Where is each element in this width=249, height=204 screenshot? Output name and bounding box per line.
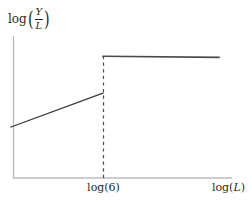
y-axis-label: log ( Y L )	[8, 7, 51, 31]
chart-figure: log ( Y L ) log(6) log(L)	[0, 0, 249, 204]
y-axis-label-fraction: Y L	[35, 7, 44, 31]
y-axis-label-close-paren: )	[44, 9, 50, 29]
series-post-threshold-line	[103, 56, 219, 57]
y-axis-label-function: log	[8, 13, 27, 25]
x-tick-label-value: 6	[109, 181, 116, 194]
x-axis-label-function: log	[212, 181, 229, 194]
x-axis-label-variable: L	[233, 181, 240, 194]
series-pre-threshold-line	[11, 93, 103, 127]
x-tick-label-threshold: log(6)	[79, 182, 128, 193]
x-axis-label: log(L)	[212, 182, 245, 193]
y-axis-label-denominator: L	[35, 21, 44, 32]
x-tick-label-function: log	[87, 181, 104, 194]
x-tick-label-close-paren: )	[116, 181, 120, 194]
y-axis-label-numerator: Y	[35, 7, 44, 18]
y-axis-label-open-paren: (	[28, 9, 34, 29]
x-axis-label-close-paren: )	[241, 181, 245, 194]
